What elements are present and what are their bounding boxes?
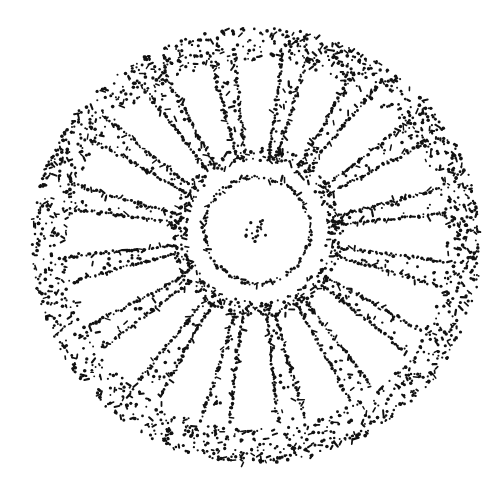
- outer-rim-stipple: [31, 27, 480, 466]
- stipple-drawing: [0, 0, 503, 479]
- central-dot-cluster: [244, 219, 266, 243]
- diatom-illustration: [0, 0, 503, 479]
- hub-ring-stipple: [170, 147, 344, 322]
